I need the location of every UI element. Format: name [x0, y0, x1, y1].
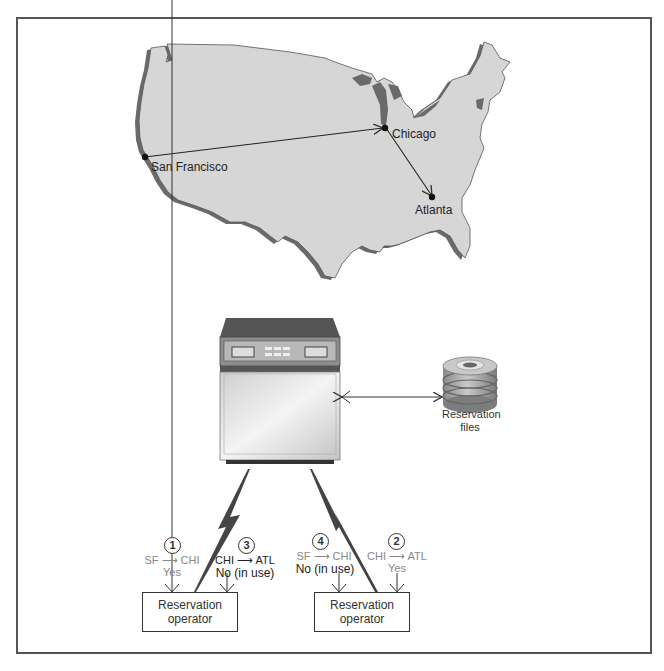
city-label-san-francisco: San Francisco	[151, 160, 228, 174]
city-label-chicago: Chicago	[392, 127, 436, 141]
reservation-operator-2: Reservation operator	[314, 592, 410, 632]
step-badge: 3	[238, 537, 255, 554]
storage-label: Reservation files	[442, 408, 498, 434]
step-badge: 2	[388, 533, 405, 550]
city-dot-sf	[142, 154, 148, 160]
city-dot-chicago	[382, 125, 388, 131]
request-result: No (in use)	[212, 566, 278, 580]
request-route: CHI ⟶ ATL	[212, 554, 278, 566]
storage-label-line1: Reservation	[442, 408, 498, 421]
request-result: Yes	[140, 566, 204, 578]
disk-pack-icon	[443, 357, 497, 413]
city-label-atlanta: Atlanta	[415, 203, 452, 217]
step-badge: 4	[312, 533, 329, 550]
operator-label-line2: operator	[143, 612, 237, 626]
request-result: Yes	[365, 562, 429, 574]
operator-label-line1: Reservation	[143, 598, 237, 612]
operator-label-line1: Reservation	[315, 598, 409, 612]
request-route: CHI ⟶ ATL	[365, 550, 429, 562]
request-route: SF ⟶ CHI	[295, 550, 353, 562]
mainframe-computer	[220, 318, 340, 464]
operator-label-line2: operator	[315, 612, 409, 626]
step-badge: 1	[164, 537, 181, 554]
city-dot-atlanta	[429, 194, 435, 200]
storage-label-line2: files	[442, 421, 498, 434]
request-result: No (in use)	[292, 562, 358, 576]
reservation-operator-1: Reservation operator	[142, 592, 238, 632]
request-route: SF ⟶ CHI	[140, 554, 204, 566]
